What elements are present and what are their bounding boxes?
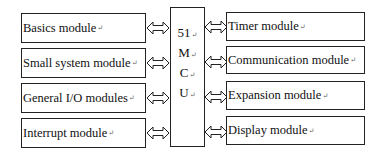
return-mark: ↵ — [309, 127, 315, 135]
bidirectional-arrow-icon — [146, 126, 170, 140]
module-label: Expansion module — [228, 88, 321, 103]
mcu-box: 51↵ M↵ C↵ U↵ — [170, 7, 205, 147]
return-mark: ↵ — [322, 92, 328, 100]
bidirectional-arrow-icon — [204, 20, 228, 34]
module-label: Display module — [228, 123, 308, 138]
return-mark: ↵ — [300, 23, 306, 31]
return-mark: ↵ — [189, 71, 195, 79]
bidirectional-arrow-icon — [146, 21, 170, 35]
return-mark: ↵ — [129, 94, 135, 102]
mcu-line: M — [178, 45, 190, 60]
expansion-module-box: Expansion module↵ — [226, 81, 365, 110]
module-label: Interrupt module — [23, 126, 107, 141]
return-mark: ↵ — [192, 31, 198, 39]
basics-module-box: Basics module↵ — [21, 13, 146, 43]
bidirectional-arrow-icon — [146, 91, 170, 105]
general-io-modules-box: General I/O modules↵ — [21, 83, 146, 113]
bidirectional-arrow-icon — [204, 125, 228, 139]
mcu-line: C — [180, 65, 189, 80]
bidirectional-arrow-icon — [204, 90, 228, 104]
bidirectional-arrow-icon — [146, 56, 170, 70]
return-mark: ↵ — [191, 51, 197, 59]
mcu-line: 51 — [178, 25, 191, 40]
small-system-module-box: Small system module↵ — [21, 48, 146, 78]
return-mark: ↵ — [350, 56, 356, 64]
interrupt-module-box: Interrupt module↵ — [21, 118, 146, 148]
return-mark: ↵ — [132, 59, 138, 67]
bidirectional-arrow-icon — [204, 55, 228, 69]
communication-module-box: Communication module↵ — [226, 46, 365, 74]
module-label: Small system module — [23, 56, 131, 71]
return-mark: ↵ — [108, 129, 114, 137]
module-label: Communication module — [228, 53, 349, 68]
return-mark: ↵ — [97, 24, 103, 32]
module-label: General I/O modules — [23, 91, 128, 106]
module-label: Timer module — [228, 19, 299, 34]
return-mark: ↵ — [190, 91, 196, 99]
display-module-box: Display module↵ — [226, 116, 365, 145]
timer-module-box: Timer module↵ — [226, 12, 365, 41]
mcu-line: U — [179, 85, 188, 100]
module-label: Basics module — [23, 21, 96, 36]
